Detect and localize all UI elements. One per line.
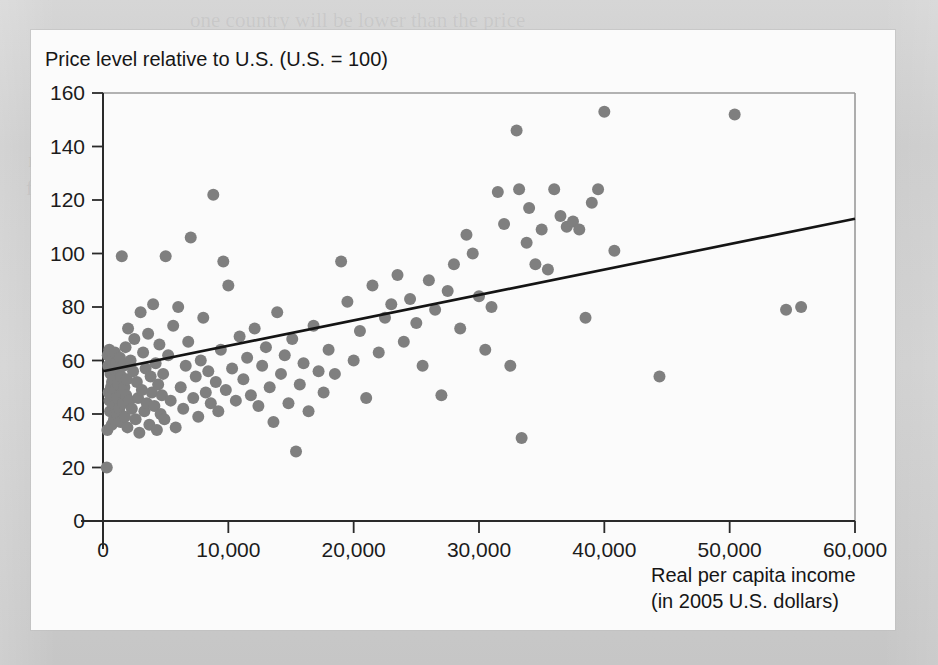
- scatter-point: [256, 360, 268, 372]
- trend-line: [103, 219, 855, 371]
- scatter-point: [135, 306, 147, 318]
- scatter-point: [249, 322, 261, 334]
- scatter-point: [153, 338, 165, 350]
- scatter-point: [271, 306, 283, 318]
- scatter-point: [780, 304, 792, 316]
- scatter-point: [542, 264, 554, 276]
- scatter-point: [341, 296, 353, 308]
- scatter-point: [486, 301, 498, 313]
- regression-trend-line: [103, 219, 855, 371]
- y-tick-label: 20: [62, 456, 85, 479]
- scatter-point: [385, 298, 397, 310]
- scatter-point: [217, 256, 229, 268]
- scatter-point: [398, 336, 410, 348]
- y-tick-label: 120: [50, 188, 85, 211]
- scatter-point: [177, 403, 189, 415]
- scatter-chart: Price level relative to U.S. (U.S. = 100…: [31, 30, 895, 630]
- scatter-point: [192, 411, 204, 423]
- scatter-point: [252, 400, 264, 412]
- scatter-point: [133, 427, 145, 439]
- scatter-point: [435, 389, 447, 401]
- scatter-point: [185, 231, 197, 243]
- scatter-point: [373, 346, 385, 358]
- scatter-point: [404, 293, 416, 305]
- scatter-points: [101, 106, 807, 474]
- scatter-point: [220, 384, 232, 396]
- y-tick-label: 40: [62, 402, 85, 425]
- scatter-point: [318, 387, 330, 399]
- y-axis-tick-marks: [92, 93, 103, 521]
- scatter-point: [190, 371, 202, 383]
- scatter-point: [329, 368, 341, 380]
- scatter-point: [417, 360, 429, 372]
- scatter-point: [128, 333, 140, 345]
- scatter-point: [279, 349, 291, 361]
- x-axis-tick-marks: [103, 521, 855, 533]
- scatter-point: [653, 371, 665, 383]
- scatter-point: [172, 301, 184, 313]
- scatter-point: [226, 363, 238, 375]
- scatter-point: [521, 237, 533, 249]
- scatter-point: [136, 384, 148, 396]
- scatter-point: [335, 256, 347, 268]
- chart-figure-card: Price level relative to U.S. (U.S. = 100…: [31, 30, 895, 630]
- plot-frame: [103, 93, 855, 521]
- scatter-point: [241, 352, 253, 364]
- scatter-point: [212, 405, 224, 417]
- scatter-point: [116, 250, 128, 262]
- scatter-point: [298, 357, 310, 369]
- x-axis-title-line1: Real per capita income: [651, 564, 856, 586]
- scatter-point: [237, 373, 249, 385]
- scatter-point: [460, 229, 472, 241]
- scatter-point: [290, 445, 302, 457]
- y-tick-label: 60: [62, 349, 85, 372]
- scatter-point: [529, 258, 541, 270]
- scatter-point: [187, 392, 199, 404]
- scatter-point: [267, 416, 279, 428]
- x-tick-label: 60,000: [823, 538, 887, 561]
- scatter-point: [303, 405, 315, 417]
- y-axis-title: Price level relative to U.S. (U.S. = 100…: [45, 48, 388, 70]
- scatter-point: [197, 312, 209, 324]
- scatter-point: [210, 376, 222, 388]
- scatter-point: [152, 379, 164, 391]
- scatter-point: [264, 381, 276, 393]
- scatter-point: [282, 397, 294, 409]
- scatter-point: [182, 336, 194, 348]
- scatter-point: [170, 421, 182, 433]
- scatter-point: [151, 424, 163, 436]
- scatter-point: [586, 197, 598, 209]
- x-tick-label: 40,000: [572, 538, 636, 561]
- scatter-point: [160, 250, 172, 262]
- x-axis-tick-labels: 010,00020,00030,00040,00050,00060,000: [97, 538, 887, 561]
- x-tick-label: 10,000: [196, 538, 260, 561]
- x-tick-label: 50,000: [698, 538, 762, 561]
- scatter-point: [142, 328, 154, 340]
- scatter-point: [467, 248, 479, 260]
- scatter-point: [137, 346, 149, 358]
- axis-lines: [81, 93, 855, 549]
- scatter-point: [410, 317, 422, 329]
- scatter-point: [523, 202, 535, 214]
- scatter-point: [513, 183, 525, 195]
- scatter-point: [498, 218, 510, 230]
- scatter-point: [608, 245, 620, 257]
- scatter-point: [442, 285, 454, 297]
- scatter-point: [360, 392, 372, 404]
- scatter-point: [101, 462, 113, 474]
- scatter-point: [234, 330, 246, 342]
- scatter-point: [492, 186, 504, 198]
- scatter-point: [479, 344, 491, 356]
- scatter-point: [275, 368, 287, 380]
- scatter-point: [366, 280, 378, 292]
- scatter-point: [423, 274, 435, 286]
- scatter-point: [554, 210, 566, 222]
- scatter-point: [126, 403, 138, 415]
- scatter-point: [207, 189, 219, 201]
- scatter-point: [516, 432, 528, 444]
- scatter-point: [195, 355, 207, 367]
- scatter-point: [147, 298, 159, 310]
- y-tick-label: 140: [50, 135, 85, 158]
- scatter-point: [729, 108, 741, 120]
- x-axis-title-line2: (in 2005 U.S. dollars): [651, 590, 839, 612]
